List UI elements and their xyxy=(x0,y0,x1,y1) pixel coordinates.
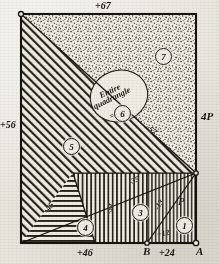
edge-label-left: +56 xyxy=(0,120,16,130)
region-number-6: 6 xyxy=(114,105,131,122)
vertex-label-p: P xyxy=(178,196,185,207)
region-number-3: 3 xyxy=(132,204,149,221)
edge-label-bottom-left: +46 xyxy=(77,248,93,258)
vertex-label-b: B xyxy=(143,246,150,257)
figure-canvas: +67 +56 4P +46 B +24 A -57 -35 -45 -34 -… xyxy=(0,0,219,264)
vertex-label-a: A xyxy=(196,246,203,257)
region-number-4: 4 xyxy=(77,219,94,236)
edge-label-right: 4P xyxy=(201,111,213,122)
region-number-5: 5 xyxy=(63,138,80,155)
region-number-7: 7 xyxy=(155,48,172,65)
edge-label-bottom-right: +24 xyxy=(159,248,175,258)
region-number-1: 1 xyxy=(176,217,193,234)
edge-label-top: +67 xyxy=(95,1,111,11)
